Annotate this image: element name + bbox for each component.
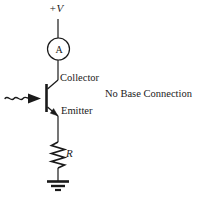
light-arrowhead <box>28 94 41 104</box>
emitter-label: Emitter <box>61 106 93 117</box>
light-arrow <box>5 94 41 104</box>
circuit-schematic <box>0 0 204 200</box>
ammeter-label: A <box>53 44 65 55</box>
light-wave-line <box>5 97 29 99</box>
no-base-connection-label: No Base Connection <box>105 89 192 100</box>
resistor-zigzag <box>52 142 65 168</box>
transistor-collector-lead <box>48 80 59 89</box>
collector-label: Collector <box>60 73 99 84</box>
supply-label: +V <box>49 3 63 14</box>
resistor-label: R <box>66 148 73 159</box>
figure-canvas: +V A Collector Emitter No Base Connectio… <box>0 0 204 200</box>
ground-symbol <box>47 182 69 191</box>
